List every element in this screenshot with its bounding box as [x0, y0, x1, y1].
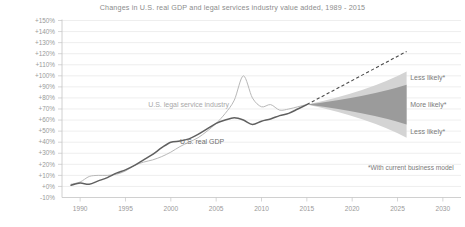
less-likely-lower: Less likely*	[410, 128, 445, 136]
y-tick-label: +40%	[38, 138, 55, 145]
data-series	[71, 76, 307, 186]
footnote: *With current business model	[368, 164, 454, 171]
y-tick-label: +50%	[38, 127, 55, 134]
projection-bands	[307, 71, 407, 137]
projection-inner-band	[307, 85, 407, 125]
y-tick-label: +120%	[35, 50, 55, 57]
y-tick-label: -10%	[40, 194, 55, 201]
series-label-real-gdp: U.S. real GDP	[180, 138, 225, 145]
y-tick-label: +30%	[38, 149, 55, 156]
y-tick-label: +110%	[35, 61, 55, 68]
more-likely: More likely*	[410, 101, 446, 109]
y-tick-label: +130%	[35, 39, 55, 46]
x-axis-ticks: 199019952000200520102015202020252030	[73, 198, 451, 212]
x-tick-label: 2010	[254, 205, 269, 212]
x-tick-label: 2030	[436, 205, 451, 212]
x-tick-label: 1995	[118, 205, 133, 212]
x-tick-label: 2005	[209, 205, 224, 212]
y-tick-label: +20%	[38, 161, 55, 168]
y-tick-label: +140%	[35, 28, 55, 35]
x-tick-label: 2020	[345, 205, 360, 212]
y-tick-label: +0%	[42, 183, 55, 190]
y-tick-label: +60%	[38, 116, 55, 123]
x-tick-label: 2015	[300, 205, 315, 212]
y-axis-ticks: +150%+140%+130%+120%+110%+100%+90%+80%+7…	[35, 17, 55, 201]
x-tick-label: 2025	[390, 205, 405, 212]
x-tick-label: 1990	[73, 205, 88, 212]
fan-annotations: Less likely*More likely*Less likely*	[410, 74, 446, 135]
y-tick-label: +100%	[35, 72, 55, 79]
y-tick-label: +10%	[38, 172, 55, 179]
y-tick-label: +150%	[35, 17, 55, 24]
chart-container: Changes in U.S. real GDP and legal servi…	[0, 0, 465, 227]
y-tick-label: +90%	[38, 83, 55, 90]
footnote-text: *With current business model	[368, 164, 454, 171]
series-label-legal-services: U.S. legal service industry	[148, 101, 229, 109]
x-tick-label: 2000	[163, 205, 178, 212]
series-line-legal-services	[71, 76, 307, 184]
chart-plot: +150%+140%+130%+120%+110%+100%+90%+80%+7…	[0, 0, 465, 227]
y-tick-label: +70%	[38, 105, 55, 112]
y-tick-label: +80%	[38, 94, 55, 101]
less-likely-upper: Less likely*	[410, 74, 445, 82]
